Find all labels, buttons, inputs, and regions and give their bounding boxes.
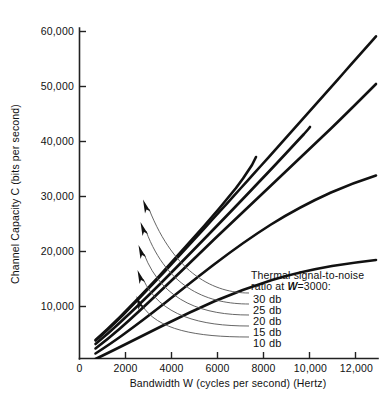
curve-20db-main <box>96 84 377 349</box>
legend-title-line2-pre: ratio at <box>251 280 287 292</box>
y-tick-label-10000: 10,000 <box>41 300 74 312</box>
legend-title-line2-post: =3000: <box>297 280 330 292</box>
capacity-curves-clipped <box>96 84 377 359</box>
x-tick-label-4000: 4000 <box>159 362 183 374</box>
figure-container: 60,000 50,000 40,000 30,000 20,000 10,00… <box>0 0 389 414</box>
y-tick-label-20000: 20,000 <box>41 245 74 257</box>
x-tick-label-6000: 6000 <box>205 362 229 374</box>
y-tick-label-40000: 40,000 <box>41 135 74 147</box>
x-axis-tick-labels: 0 2000 4000 6000 8000 10,000 12,000 <box>76 362 373 374</box>
arrow-head-15db <box>138 270 146 284</box>
x-axis-title: Bandwidth W (cycles per second) (Hertz) <box>130 377 327 389</box>
legend-leader-lines <box>142 209 249 337</box>
x-tick-label-12000: 12,000 <box>340 362 373 374</box>
x-tick-label-10000: 10,000 <box>294 362 327 374</box>
x-tick-label-8000: 8000 <box>251 362 275 374</box>
x-tick-label-0: 0 <box>76 362 82 374</box>
y-axis-tick-labels: 60,000 50,000 40,000 30,000 20,000 10,00… <box>41 25 74 312</box>
y-tick-label-60000: 60,000 <box>41 25 74 37</box>
axes <box>80 28 379 359</box>
legend-annotation: Thermal signal-to-noise ratio at W=3000:… <box>251 269 364 349</box>
y-axis-title: Channel Capacity C (bits per second) <box>9 104 21 284</box>
y-tick-label-30000: 30,000 <box>41 190 74 202</box>
legend-entry-10db: 10 db <box>253 337 282 349</box>
x-tick-label-2000: 2000 <box>113 362 137 374</box>
arrow-head-30db <box>143 200 151 214</box>
channel-capacity-chart: 60,000 50,000 40,000 30,000 20,000 10,00… <box>0 0 389 414</box>
y-axis-ticks <box>80 32 87 307</box>
legend-title-line2: ratio at W=3000: <box>251 280 331 292</box>
x-axis-ticks <box>126 352 356 359</box>
y-tick-label-50000: 50,000 <box>41 80 74 92</box>
